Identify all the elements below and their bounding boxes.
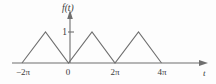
x-tick-label-zero: 0	[60, 68, 76, 77]
x-tick-label-4pi: 4π	[151, 68, 173, 77]
x-tick-label-2pi: 2π	[104, 68, 126, 77]
triangular-wave-figure: f(t) 1 −2π 0 2π 4π t	[0, 0, 216, 84]
x-axis-label: t	[203, 69, 206, 78]
y-axis-label: f(t)	[62, 4, 74, 14]
x-axis-arrow-icon	[199, 60, 208, 66]
waveform-trace	[22, 32, 162, 63]
y-tick-label-1: 1	[58, 28, 67, 38]
x-tick-label-neg-2pi: −2π	[10, 68, 36, 77]
